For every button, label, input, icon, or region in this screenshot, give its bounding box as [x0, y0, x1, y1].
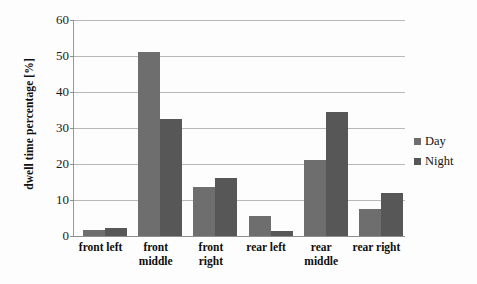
category-label-line1: front — [143, 241, 168, 253]
y-tick-label-0: 0 — [29, 229, 69, 242]
category-label-line1: rear left — [246, 241, 285, 253]
y-tick-label-50: 50 — [29, 49, 69, 62]
category-label-line1: rear right — [353, 241, 401, 253]
y-tick-mark-0 — [70, 236, 74, 237]
legend-label: Day — [425, 134, 446, 149]
y-tick-label-20: 20 — [29, 157, 69, 170]
y-tick-label-10: 10 — [29, 193, 69, 206]
category-label-line1: front left — [79, 241, 123, 253]
bar-rear-left-night[interactable] — [271, 231, 293, 236]
x-category-label-rear-right: rear right — [343, 240, 410, 254]
legend-swatch-night-icon — [414, 158, 421, 165]
bar-front-middle-day[interactable] — [138, 52, 160, 236]
bar-group-rear-left — [240, 20, 295, 236]
plot-area — [73, 20, 404, 236]
x-axis-category-labels: front leftfrontmiddlefrontrightrear left… — [73, 240, 404, 284]
bar-front-right-day[interactable] — [193, 187, 215, 236]
bar-rear-middle-night[interactable] — [326, 112, 348, 236]
y-tick-label-30: 30 — [29, 121, 69, 134]
bar-group-front-left — [74, 20, 129, 236]
y-tick-label-60: 60 — [29, 13, 69, 26]
bar-rear-left-day[interactable] — [249, 216, 271, 236]
bar-rear-middle-day[interactable] — [304, 160, 326, 236]
bar-rear-right-night[interactable] — [381, 193, 403, 236]
category-label-line2: right — [177, 254, 244, 268]
bar-front-left-day[interactable] — [83, 230, 105, 236]
category-label-line2: middle — [288, 254, 355, 268]
legend-item-night[interactable]: Night — [414, 151, 476, 171]
bar-group-rear-middle — [295, 20, 350, 236]
bar-group-front-middle — [129, 20, 184, 236]
bar-front-middle-night[interactable] — [160, 119, 182, 236]
bar-front-right-night[interactable] — [215, 178, 237, 236]
chart-legend: DayNight — [414, 131, 476, 171]
legend-swatch-day-icon — [414, 138, 421, 145]
y-tick-label-40: 40 — [29, 85, 69, 98]
legend-item-day[interactable]: Day — [414, 131, 476, 151]
bar-front-left-night[interactable] — [105, 228, 127, 236]
legend-label: Night — [425, 154, 453, 169]
bar-chart-figure: dwell time percentage [%] 6050403020100 … — [0, 0, 477, 284]
y-axis-tick-labels: 6050403020100 — [29, 0, 69, 284]
category-label-line1: front — [199, 241, 224, 253]
bar-group-rear-right — [350, 20, 405, 236]
bar-rear-right-day[interactable] — [359, 209, 381, 236]
bars-layer — [74, 20, 405, 236]
axis-baseline — [74, 236, 405, 237]
category-label-line1: rear — [311, 241, 332, 253]
bar-group-front-right — [184, 20, 239, 236]
